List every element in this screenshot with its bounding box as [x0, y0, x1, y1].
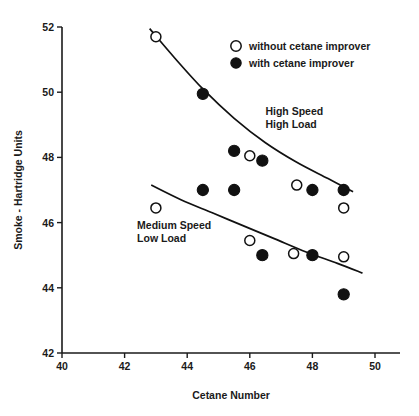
data-points-group [151, 32, 349, 300]
y-axis-title: Smoke - Hartridge Units [12, 130, 24, 250]
data-point-open-circle [245, 151, 255, 161]
data-point-open-circle [289, 249, 299, 259]
data-point-open-circle [339, 252, 349, 262]
data-point-filled-circle [338, 289, 349, 300]
chart-figure: 424446485052 404244464850 High SpeedHigh… [0, 0, 419, 416]
data-point-filled-circle [229, 184, 240, 195]
data-point-filled-circle [257, 155, 268, 166]
annotation-line-1: High Speed [265, 105, 323, 117]
x-axis-title: Cetane Number [192, 389, 270, 401]
scatter-plot-canvas: 424446485052 404244464850 High SpeedHigh… [0, 0, 419, 416]
annotation-line-2: Low Load [137, 232, 186, 244]
y-tick-label: 44 [42, 282, 54, 294]
legend-marker-open-circle [231, 41, 241, 51]
legend-label-without: without cetane improver [248, 40, 370, 52]
annotation-line-1: Medium Speed [137, 219, 211, 231]
data-point-filled-circle [197, 184, 208, 195]
x-axis-ticks: 404244464850 [56, 353, 381, 372]
data-point-open-circle [245, 236, 255, 246]
data-point-filled-circle [229, 145, 240, 156]
annotation-line-2: High Load [265, 118, 316, 130]
y-tick-label: 46 [42, 217, 54, 229]
y-tick-label: 52 [42, 21, 54, 33]
x-tick-label: 40 [56, 360, 68, 372]
x-tick-label: 46 [244, 360, 256, 372]
data-point-open-circle [151, 32, 161, 42]
legend-marker-filled-circle [231, 58, 241, 68]
data-point-filled-circle [338, 184, 349, 195]
annotations-group: High SpeedHigh LoadMedium SpeedLow Load [137, 105, 323, 244]
x-tick-label: 44 [181, 360, 193, 372]
data-point-filled-circle [307, 250, 318, 261]
data-point-open-circle [151, 203, 161, 213]
legend: without cetane improver with cetane impr… [231, 40, 371, 69]
y-tick-label: 48 [42, 151, 54, 163]
data-point-open-circle [292, 180, 302, 190]
data-point-filled-circle [307, 184, 318, 195]
legend-label-with: with cetane improver [248, 57, 354, 69]
y-tick-label: 50 [42, 86, 54, 98]
x-tick-label: 42 [119, 360, 131, 372]
data-point-open-circle [339, 203, 349, 213]
x-tick-label: 50 [369, 360, 381, 372]
x-tick-label: 48 [307, 360, 319, 372]
data-point-filled-circle [197, 88, 208, 99]
data-point-filled-circle [257, 250, 268, 261]
axes-group: 424446485052 404244464850 [42, 21, 400, 372]
y-axis-ticks: 424446485052 [42, 21, 62, 359]
y-tick-label: 42 [42, 347, 54, 359]
